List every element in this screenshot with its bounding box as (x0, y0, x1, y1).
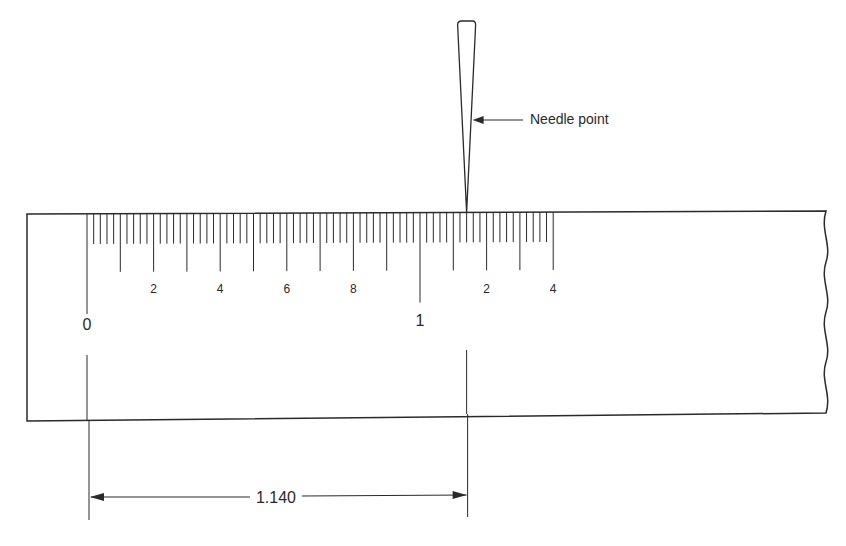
minor-label: 4 (550, 282, 557, 296)
dimension-label: 1.140 (256, 489, 296, 506)
major-label-zero: 0 (83, 316, 92, 333)
minor-label: 6 (283, 282, 290, 296)
needle-icon (458, 21, 476, 212)
ruler-diagram: 2 4 6 8 2 4 0 1 Needle point 1.140 (0, 0, 846, 546)
arrowhead-icon (473, 116, 484, 124)
needle-point-label: Needle point (530, 111, 609, 127)
minor-label: 2 (483, 282, 490, 296)
minor-label: 2 (150, 282, 157, 296)
arrowhead-right-icon (453, 491, 467, 499)
minor-label: 4 (217, 282, 224, 296)
arrowhead-left-icon (90, 493, 104, 501)
scale-tick-labels: 2 4 6 8 2 4 0 1 (83, 282, 557, 333)
scale-ticks (87, 212, 553, 314)
major-label-one: 1 (416, 312, 425, 329)
minor-label: 8 (350, 282, 357, 296)
dimension-line-right (302, 495, 467, 496)
